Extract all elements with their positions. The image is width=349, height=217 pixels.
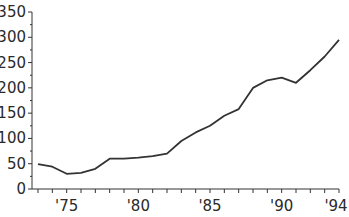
x-tick-label: '85: [198, 197, 221, 215]
y-tick-label: 100: [0, 129, 26, 147]
y-tick-label: 350: [0, 3, 26, 21]
line-chart: 050100150200250300350 '75'80'85'90'94: [0, 0, 349, 217]
y-tick-label: 50: [7, 155, 26, 173]
data-line: [38, 40, 339, 174]
y-tick-label: 300: [0, 28, 26, 46]
x-axis: '75'80'85'90'94: [32, 189, 348, 215]
x-tick-label: '75: [55, 197, 78, 215]
y-axis: 050100150200250300350: [0, 3, 32, 198]
x-tick-label: '90: [270, 197, 293, 215]
y-tick-label: 0: [16, 180, 26, 198]
y-tick-label: 200: [0, 79, 26, 97]
y-tick-label: 150: [0, 104, 26, 122]
x-tick-label: '80: [127, 197, 150, 215]
x-tick-label: '94: [324, 197, 347, 215]
y-tick-label: 250: [0, 54, 26, 72]
